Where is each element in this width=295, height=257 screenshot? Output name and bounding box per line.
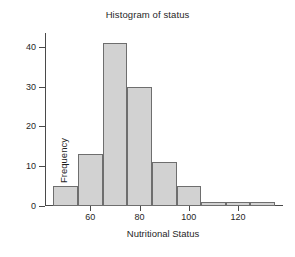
- y-tick-label: 30: [6, 82, 36, 92]
- y-tick-mark: [39, 87, 45, 88]
- x-tick-mark: [238, 206, 239, 211]
- y-axis-title: Frequency: [58, 106, 69, 216]
- y-tick-mark: [39, 126, 45, 127]
- y-tick-mark: [39, 166, 45, 167]
- histogram-bar: [78, 154, 103, 206]
- histogram-bar: [226, 202, 251, 206]
- histogram-bar: [103, 43, 128, 206]
- y-tick-mark: [39, 47, 45, 48]
- x-axis-title: Nutritional Status: [46, 228, 280, 239]
- histogram-bar: [127, 87, 152, 206]
- x-tick-label: 80: [120, 212, 160, 222]
- x-tick-label: 100: [169, 212, 209, 222]
- y-tick-label: 0: [6, 201, 36, 211]
- histogram-bar: [201, 202, 226, 206]
- histogram-figure: Histogram of status 010203040 6080100120…: [0, 0, 295, 257]
- x-tick-mark: [140, 206, 141, 211]
- chart-title: Histogram of status: [0, 9, 295, 20]
- histogram-bar: [152, 162, 177, 206]
- y-tick-label: 40: [6, 42, 36, 52]
- histogram-bars: [46, 35, 280, 206]
- x-tick-mark: [189, 206, 190, 211]
- x-tick-label: 120: [218, 212, 258, 222]
- y-tick-label: 20: [6, 121, 36, 131]
- x-tick-label: 60: [70, 212, 110, 222]
- plot-area: Frequency: [46, 35, 280, 206]
- histogram-bar: [250, 202, 275, 206]
- y-tick-label: 10: [6, 161, 36, 171]
- x-tick-mark: [90, 206, 91, 211]
- histogram-bar: [177, 186, 202, 206]
- y-tick-mark: [39, 206, 45, 207]
